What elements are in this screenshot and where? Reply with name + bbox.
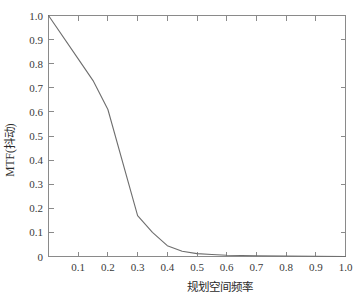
y-tick-labels: 1.0 0.9 0.8 0.7 0.6 0.5 0.4 0.3 0.2 0.1 … [29, 10, 43, 263]
y-tick-label: 0.9 [29, 34, 43, 46]
x-tick-label: 1.0 [339, 261, 353, 273]
x-axis-title: 规划空间频率 [187, 280, 253, 293]
y-tick-label: 0.4 [29, 154, 43, 166]
x-tick-label: 0.9 [309, 261, 323, 273]
y-tick-label: 0.2 [29, 202, 43, 214]
y-tick-label: 0.3 [29, 178, 43, 190]
y-axis-title: MTF(抖动) [3, 123, 17, 176]
x-tick-label: 0.5 [190, 261, 204, 273]
y-tick-label: 0.7 [29, 82, 43, 94]
x-tick-label: 0.6 [220, 261, 234, 273]
y-tick-label: 0.8 [29, 58, 43, 70]
mtf-line-chart: 1.0 0.9 0.8 0.7 0.6 0.5 0.4 0.3 0.2 0.1 … [0, 0, 364, 308]
x-tick-label: 0.7 [250, 261, 264, 273]
x-tick-labels: 0.1 0.2 0.3 0.4 0.5 0.6 0.7 0.8 0.9 1.0 [71, 261, 353, 273]
x-tick-label: 0.2 [101, 261, 115, 273]
y-tick-label: 1.0 [29, 10, 43, 22]
y-tick-label: 0.1 [29, 226, 43, 238]
x-tick-label: 0.4 [160, 261, 174, 273]
chart-figure: 1.0 0.9 0.8 0.7 0.6 0.5 0.4 0.3 0.2 0.1 … [0, 0, 364, 308]
y-tick-label: 0.6 [29, 106, 43, 118]
plot-frame [49, 16, 346, 257]
y-axis-ticks [49, 16, 346, 257]
y-tick-label: 0 [38, 251, 44, 263]
x-tick-label: 0.1 [71, 261, 85, 273]
x-tick-label: 0.3 [131, 261, 145, 273]
x-axis-ticks [49, 16, 346, 257]
x-tick-label: 0.8 [279, 261, 293, 273]
y-tick-label: 0.5 [29, 130, 43, 142]
mtf-curve [49, 16, 346, 257]
